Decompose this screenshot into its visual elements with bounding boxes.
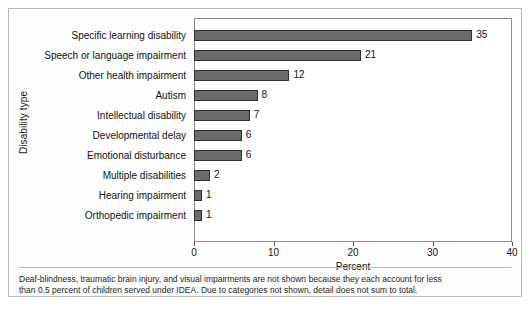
bar-value-label: 7 <box>254 109 260 120</box>
bar-value-label: 12 <box>293 69 304 80</box>
x-axis-tick-label: 40 <box>497 247 527 258</box>
category-label: Intellectual disability <box>97 110 186 121</box>
bar <box>194 90 258 101</box>
bar <box>194 190 202 201</box>
bar-row: Specific learning disability35 <box>9 26 521 46</box>
x-axis-tick <box>274 242 275 246</box>
bar-row: Orthopedic impairment1 <box>9 206 521 226</box>
chart-footnote: Deaf-blindness, traumatic brain injury, … <box>19 267 511 296</box>
bar-row: Other health impairment12 <box>9 66 521 86</box>
category-label: Hearing impairment <box>99 190 186 201</box>
bar <box>194 50 361 61</box>
bar <box>194 70 289 81</box>
category-label: Speech or language impairment <box>44 50 186 61</box>
x-axis-tick-label: 10 <box>259 247 289 258</box>
bar-value-label: 6 <box>246 149 252 160</box>
category-label: Developmental delay <box>93 130 186 141</box>
category-label: Specific learning disability <box>71 30 186 41</box>
bar-row: Hearing impairment1 <box>9 186 521 206</box>
x-axis-tick <box>433 242 434 246</box>
bar-value-label: 21 <box>365 49 376 60</box>
bar-row: Speech or language impairment21 <box>9 46 521 66</box>
category-label: Multiple disabilities <box>103 170 186 181</box>
category-label: Autism <box>155 90 186 101</box>
bar-value-label: 35 <box>476 29 487 40</box>
bar <box>194 110 250 121</box>
bar <box>194 150 242 161</box>
footnote-line-2: than 0.5 percent of children served unde… <box>19 285 511 296</box>
category-label: Orthopedic impairment <box>85 210 186 221</box>
bar-row: Developmental delay6 <box>9 126 521 146</box>
x-axis-tick-label: 0 <box>179 247 209 258</box>
bar <box>194 210 202 221</box>
x-axis-tick-label: 20 <box>338 247 368 258</box>
bar-row: Multiple disabilities2 <box>9 166 521 186</box>
bar-row: Emotional disturbance6 <box>9 146 521 166</box>
category-label: Other health impairment <box>79 70 186 81</box>
bar-row: Intellectual disability7 <box>9 106 521 126</box>
x-axis-tick <box>353 242 354 246</box>
bar <box>194 170 210 181</box>
bar-row: Autism8 <box>9 86 521 106</box>
x-axis-tick <box>512 242 513 246</box>
bar-value-label: 6 <box>246 129 252 140</box>
bar <box>194 30 472 41</box>
bar-value-label: 2 <box>214 169 220 180</box>
category-label: Emotional disturbance <box>87 150 186 161</box>
bar <box>194 130 242 141</box>
bar-value-label: 1 <box>206 189 212 200</box>
x-axis-tick <box>194 242 195 246</box>
x-axis-tick-label: 30 <box>418 247 448 258</box>
figure-panel: Disability type Specific learning disabi… <box>8 8 522 297</box>
bar-value-label: 8 <box>262 89 268 100</box>
bar-value-label: 1 <box>206 209 212 220</box>
footnote-line-1: Deaf-blindness, traumatic brain injury, … <box>19 274 511 285</box>
